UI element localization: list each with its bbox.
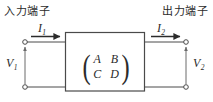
matrix-right-paren: ) [121, 53, 129, 81]
terminal-input-bottom [23, 85, 28, 90]
matrix-left-paren: ( [82, 53, 90, 81]
terminal-output-top [184, 40, 189, 45]
current-label-i2: I2 [157, 22, 165, 34]
terminal-input-top [23, 40, 28, 45]
voltage-symbol-v2: V [193, 56, 200, 70]
matrix-grid: A B C D [92, 53, 120, 82]
abcd-matrix: ( A B C D ) [86, 49, 126, 85]
matrix-cell-d: D [110, 68, 119, 82]
voltage-symbol-v1: V [6, 56, 13, 70]
current-subscript-i1: 1 [42, 28, 46, 37]
voltage-subscript-v2: 2 [201, 63, 205, 72]
matrix-cell-a: A [93, 53, 101, 67]
figure-canvas: 入力端子 出力端子 I1 I2 V1 V2 ( A B C D ) [0, 0, 213, 102]
terminal-output-bottom [184, 85, 189, 90]
voltage-subscript-v1: 1 [14, 63, 18, 72]
current-subscript-i2: 2 [161, 28, 165, 37]
voltage-label-v1: V1 [6, 57, 17, 69]
input-terminal-label: 入力端子 [4, 6, 50, 17]
current-label-i1: I1 [38, 22, 46, 34]
matrix-cell-b: B [110, 53, 119, 67]
matrix-cell-c: C [93, 68, 101, 82]
voltage-label-v2: V2 [193, 57, 204, 69]
output-terminal-label: 出力端子 [162, 6, 208, 17]
